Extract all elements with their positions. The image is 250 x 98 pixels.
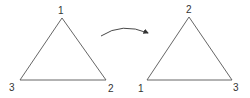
rotation-diagram: 1 3 2 2 1 3 [0,0,250,98]
rotation-arrow-icon [101,28,148,36]
right-bottom-left-label: 1 [138,83,144,94]
left-triangle: 1 3 2 [9,5,114,94]
left-bottom-right-label: 2 [108,83,114,94]
left-top-label: 1 [58,5,64,16]
right-triangle: 2 1 3 [138,4,239,94]
left-bottom-left-label: 3 [9,82,15,93]
right-top-label: 2 [186,4,192,15]
right-bottom-right-label: 3 [233,82,239,93]
